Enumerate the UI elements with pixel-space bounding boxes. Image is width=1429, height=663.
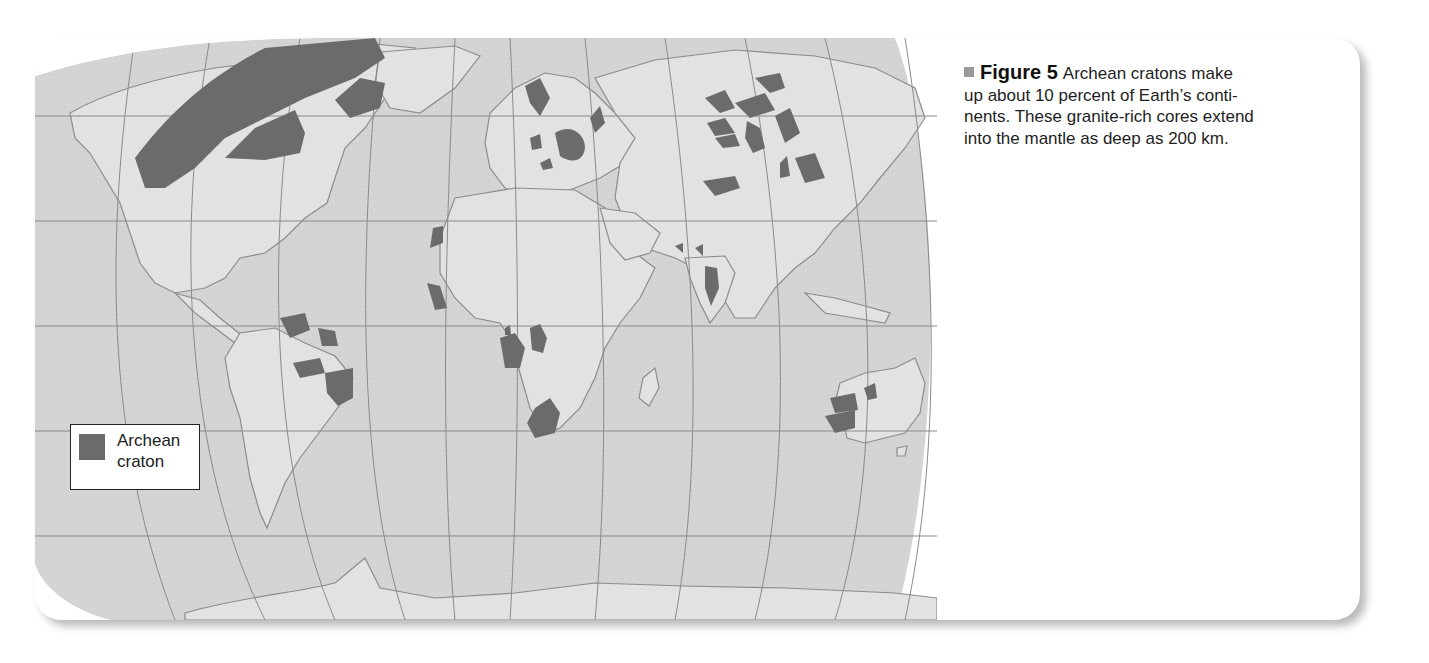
legend-label: Archean craton	[117, 430, 197, 472]
world-map: Archean craton	[35, 38, 937, 620]
map-legend: Archean craton	[70, 424, 200, 490]
caption-line-3: nents. These granite-rich cores extend	[964, 107, 1254, 126]
figure-label: Figure 5	[980, 61, 1058, 83]
caption-line-4: into the mantle as deep as 200 km.	[964, 129, 1229, 148]
craton-swatch-icon	[79, 434, 105, 460]
figure-caption: Figure 5Archean cratons make up about 10…	[964, 62, 1324, 149]
square-bullet-icon	[964, 67, 974, 77]
legend-label-line2: craton	[117, 451, 197, 472]
caption-line-2: up about 10 percent of Earth’s conti-	[964, 86, 1238, 105]
caption-line-1: Archean cratons make	[1063, 64, 1233, 83]
legend-label-line1: Archean	[117, 430, 197, 451]
figure-card: Archean craton Figure 5Archean cratons m…	[35, 38, 1360, 620]
